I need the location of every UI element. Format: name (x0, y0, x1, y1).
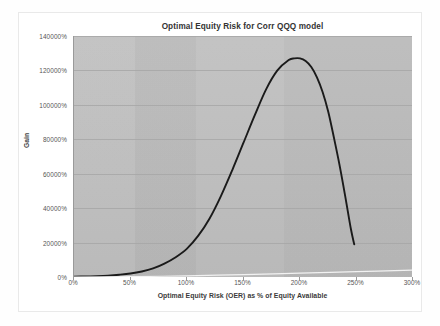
x-axis-tickmark (243, 277, 244, 280)
x-axis-tick-label: 0% (68, 279, 77, 286)
y-axis-tick-label: 0% (58, 274, 67, 281)
x-axis-tickmark (412, 277, 413, 280)
x-axis-tick-label: 150% (234, 279, 250, 286)
x-axis-tick-labels: 0%50%100%150%200%250%300% (73, 279, 412, 291)
x-axis-tick-label: 200% (291, 279, 307, 286)
y-axis-tick-labels: 0%20000%40000%60000%80000%100000%120000%… (18, 36, 71, 277)
x-axis-title: Optimal Equity Risk (OER) as % of Equity… (73, 292, 412, 299)
chart-figure: Optimal Equity Risk for Corr QQQ model G… (0, 0, 440, 326)
chart-title: Optimal Equity Risk for Corr QQQ model (73, 22, 412, 31)
plot-area (73, 36, 412, 277)
y-axis-tick-label: 120000% (39, 67, 67, 74)
x-axis-tickmark (73, 277, 74, 280)
y-axis-tick-label: 100000% (39, 101, 67, 108)
y-axis-tick-label: 80000% (43, 136, 67, 143)
x-axis-tick-label: 300% (404, 279, 420, 286)
y-axis-tick-label: 20000% (43, 239, 67, 246)
data-series-line (74, 58, 354, 277)
x-axis-tickmark (130, 277, 131, 280)
data-series-layer (74, 36, 412, 277)
x-axis-tick-label: 250% (347, 279, 363, 286)
y-axis-tick-label: 60000% (43, 170, 67, 177)
x-axis-tick-label: 50% (123, 279, 136, 286)
x-axis-tickmark (356, 277, 357, 280)
y-axis-tick-label: 40000% (43, 205, 67, 212)
x-axis-tickmark (299, 277, 300, 280)
x-axis-tickmark (186, 277, 187, 280)
y-axis-tick-label: 140000% (39, 33, 67, 40)
x-axis-tick-label: 100% (178, 279, 194, 286)
